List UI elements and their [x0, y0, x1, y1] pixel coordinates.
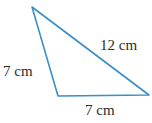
triangle-diagram: 7 cm 12 cm 7 cm: [0, 0, 152, 123]
label-hypotenuse: 12 cm: [100, 37, 137, 53]
label-bottom-side: 7 cm: [85, 102, 115, 118]
label-left-side: 7 cm: [3, 63, 33, 79]
